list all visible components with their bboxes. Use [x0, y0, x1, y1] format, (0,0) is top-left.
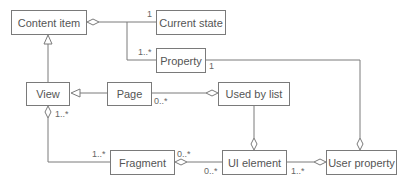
aggregation-diamond-icon	[314, 159, 326, 165]
multiplicity-label: 1..*	[291, 166, 305, 176]
multiplicity-label: 1..*	[92, 149, 106, 159]
class-current-state: Current state	[156, 10, 226, 35]
class-content-item: Content item	[11, 10, 87, 35]
class-label: Used by list	[226, 88, 283, 100]
class-label: Page	[117, 88, 143, 100]
aggregation-diamond-icon	[87, 19, 99, 25]
aggregation-diamond-icon	[206, 90, 218, 96]
multiplicity-label: 0..*	[204, 166, 218, 176]
class-page: Page	[107, 82, 152, 106]
class-fragment: Fragment	[110, 150, 175, 175]
class-label: UI element	[228, 157, 281, 169]
generalization-arrow-icon	[44, 35, 52, 44]
class-label: Property	[160, 55, 202, 67]
class-label: Content item	[18, 17, 80, 29]
class-view: View	[26, 82, 70, 106]
multiplicity-label: 1	[209, 61, 214, 71]
multiplicity-label: 0..*	[177, 149, 191, 159]
aggregation-diamond-icon	[175, 159, 187, 165]
multiplicity-label: 1	[147, 9, 152, 19]
class-label: View	[36, 88, 60, 100]
class-user-property: User property	[326, 150, 397, 175]
class-used-by-list: Used by list	[218, 82, 290, 106]
class-label: Current state	[159, 17, 223, 29]
aggregation-diamond-icon	[357, 138, 363, 150]
multiplicity-label: 1..*	[55, 109, 69, 119]
generalization-arrow-icon	[71, 89, 80, 97]
multiplicity-label: 0..*	[154, 96, 168, 106]
class-label: User property	[328, 157, 395, 169]
class-label: Fragment	[119, 157, 166, 169]
class-property: Property	[156, 48, 206, 73]
multiplicity-label: 1..*	[138, 47, 152, 57]
class-ui-element: UI element	[222, 150, 287, 175]
aggregation-diamond-icon	[45, 106, 51, 118]
aggregation-diamond-icon	[251, 138, 257, 150]
